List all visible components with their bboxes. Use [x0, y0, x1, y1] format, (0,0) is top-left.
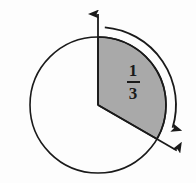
circle-fraction-diagram — [0, 0, 196, 183]
fraction-label: 1 3 — [119, 62, 147, 102]
figure-container: 1 3 — [0, 0, 196, 183]
fraction-numerator: 1 — [119, 62, 147, 79]
fraction-bar — [127, 81, 140, 83]
fraction-denominator: 3 — [119, 85, 147, 102]
